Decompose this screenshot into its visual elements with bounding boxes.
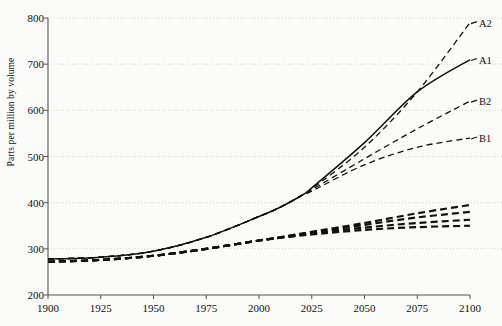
- chart-figure: Parts per million by volume 200300400500…: [0, 0, 502, 326]
- series-label-B1: B1: [479, 133, 491, 144]
- x-tick-label-2025: 2025: [301, 302, 323, 314]
- y-tick-label-700: 700: [10, 58, 44, 70]
- x-tick-label-2050: 2050: [354, 302, 376, 314]
- y-tick-label-500: 500: [10, 151, 44, 163]
- series-leader-B1: [471, 137, 477, 139]
- series-leader-B2: [471, 100, 477, 102]
- series-label-B2: B2: [479, 96, 491, 107]
- series-line-lower-b: [48, 212, 470, 262]
- y-tick-label-300: 300: [10, 243, 44, 255]
- y-tick-label-800: 800: [10, 12, 44, 24]
- chart-plot-area: [0, 0, 502, 326]
- x-tick-label-1900: 1900: [37, 302, 59, 314]
- series-line-lower-a: [48, 205, 470, 262]
- series-leader-A1: [471, 59, 477, 61]
- x-tick-label-2000: 2000: [248, 302, 270, 314]
- x-tick-label-2100: 2100: [459, 302, 481, 314]
- series-label-A2: A2: [479, 17, 492, 28]
- x-tick-label-2075: 2075: [406, 302, 428, 314]
- y-tick-label-600: 600: [10, 104, 44, 116]
- x-tick-label-1950: 1950: [143, 302, 165, 314]
- x-tick-label-1925: 1925: [90, 302, 112, 314]
- series-line-A1: [48, 60, 470, 259]
- series-line-A2: [48, 23, 470, 259]
- series-leader-A2: [471, 22, 477, 24]
- y-tick-label-400: 400: [10, 197, 44, 209]
- series-line-B2: [48, 101, 470, 259]
- y-tick-label-200: 200: [10, 289, 44, 301]
- x-tick-label-1975: 1975: [195, 302, 217, 314]
- y-axis-ticks: 200300400500600700800: [8, 0, 44, 326]
- series-label-A1: A1: [479, 54, 492, 65]
